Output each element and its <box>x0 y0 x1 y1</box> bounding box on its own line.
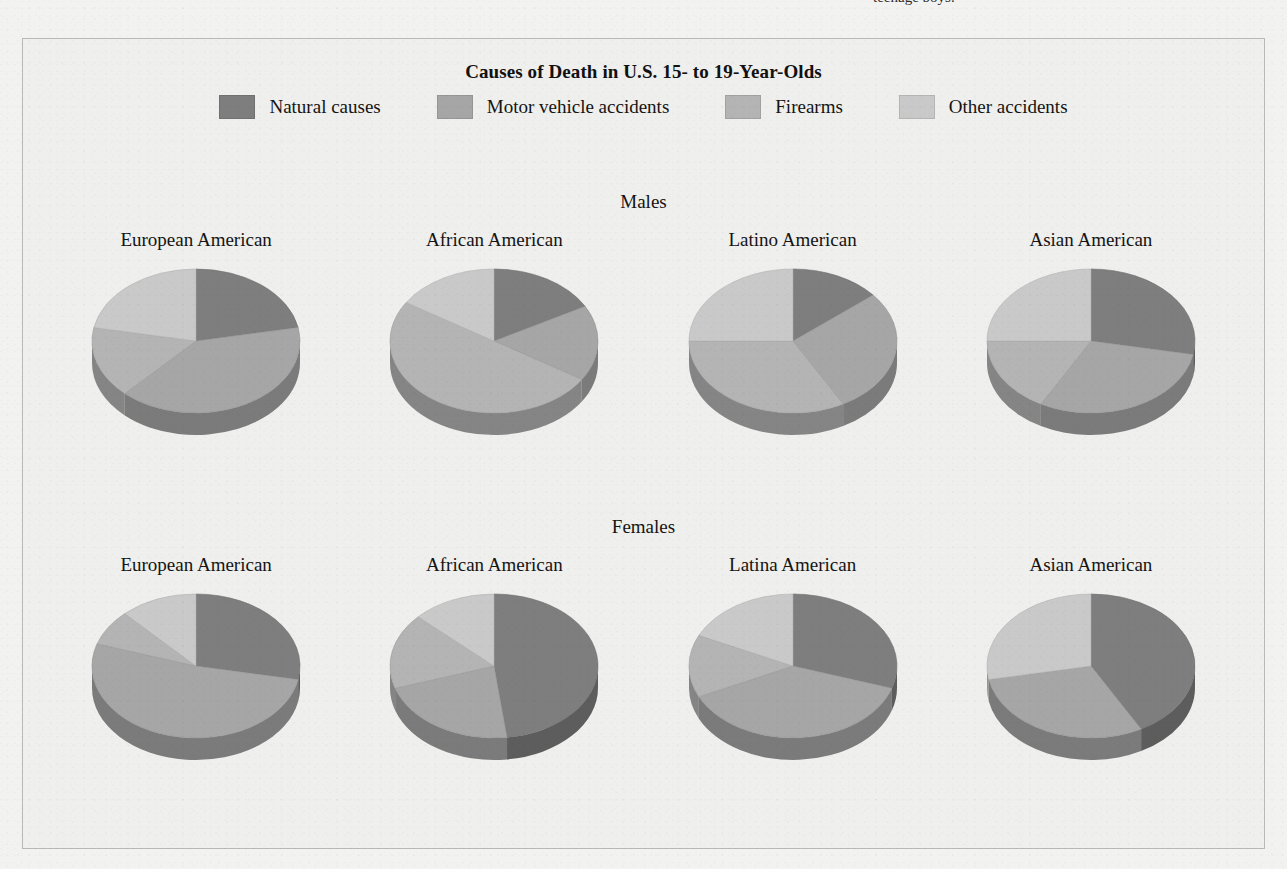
pie-cell-males-african-american: African American <box>369 229 619 441</box>
section-heading-females: Females <box>23 516 1264 538</box>
pie-label-females-asian-american: Asian American <box>1029 554 1152 576</box>
pie-row-males: European American African American Latin… <box>23 229 1264 441</box>
legend-item-other-accidents: Other accidents <box>899 95 1068 119</box>
pie-cell-females-latina-american: Latina American <box>668 554 918 766</box>
section-heading-males: Males <box>23 191 1264 213</box>
cut-off-caption: teenage boys. <box>0 0 1287 13</box>
pie-chart-males-european-american <box>80 263 312 441</box>
pie-label-females-european-american: European American <box>120 554 271 576</box>
pie-chart-males-latino-american <box>677 263 909 441</box>
figure-panel: Causes of Death in U.S. 15- to 19-Year-O… <box>22 38 1265 849</box>
legend-item-natural-causes: Natural causes <box>219 95 380 119</box>
legend-swatch-firearms <box>725 95 761 119</box>
pie-cell-females-african-american: African American <box>369 554 619 766</box>
pie-label-males-latino-american: Latino American <box>729 229 857 251</box>
pie-chart-males-asian-american <box>975 263 1207 441</box>
pie-label-males-asian-american: Asian American <box>1029 229 1152 251</box>
pie-chart-females-latina-american <box>677 588 909 766</box>
pie-chart-females-asian-american <box>975 588 1207 766</box>
legend-item-firearms: Firearms <box>725 95 843 119</box>
pie-row-females: European American African American Latin… <box>23 554 1264 766</box>
pie-cell-males-latino-american: Latino American <box>668 229 918 441</box>
legend-label-firearms: Firearms <box>775 96 843 118</box>
pie-cell-females-asian-american: Asian American <box>966 554 1216 766</box>
legend: Natural causes Motor vehicle accidents F… <box>23 95 1264 119</box>
legend-label-other-accidents: Other accidents <box>949 96 1068 118</box>
pie-label-males-european-american: European American <box>120 229 271 251</box>
figure-title: Causes of Death in U.S. 15- to 19-Year-O… <box>23 61 1264 83</box>
legend-label-natural-causes: Natural causes <box>269 96 380 118</box>
pie-label-females-african-american: African American <box>426 554 563 576</box>
pie-label-males-african-american: African American <box>426 229 563 251</box>
legend-swatch-other-accidents <box>899 95 935 119</box>
legend-swatch-motor-vehicle-accidents <box>437 95 473 119</box>
legend-swatch-natural-causes <box>219 95 255 119</box>
pie-chart-females-european-american <box>80 588 312 766</box>
pie-label-females-latina-american: Latina American <box>729 554 856 576</box>
pie-chart-females-african-american <box>378 588 610 766</box>
pie-chart-males-african-american <box>378 263 610 441</box>
legend-item-motor-vehicle-accidents: Motor vehicle accidents <box>437 95 670 119</box>
pie-cell-females-european-american: European American <box>71 554 321 766</box>
pie-cell-males-asian-american: Asian American <box>966 229 1216 441</box>
pie-cell-males-european-american: European American <box>71 229 321 441</box>
legend-label-motor-vehicle-accidents: Motor vehicle accidents <box>487 96 670 118</box>
cut-off-caption-text: teenage boys. <box>873 0 955 6</box>
